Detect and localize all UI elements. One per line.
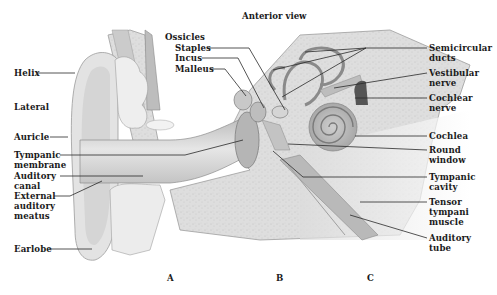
- ear-illustration: [0, 0, 497, 295]
- label-lateral: Lateral: [14, 102, 49, 112]
- label-vestibular-nerve: Vestibular nerve: [429, 68, 479, 88]
- label-tympanic-cavity: Tympanic cavity: [429, 172, 476, 192]
- label-auricle: Auricle: [14, 132, 49, 142]
- label-ossicles: Ossicles: [165, 32, 205, 42]
- label-staples: Staples: [175, 43, 211, 53]
- label-incus: Incus: [175, 53, 202, 63]
- label-tensor-tympani-muscle: Tensor tympani muscle: [429, 197, 469, 227]
- section-marker-c: C: [367, 273, 374, 283]
- ear-anatomy-diagram: Anterior view Helix Lateral Auricle Tymp…: [0, 0, 497, 295]
- label-external-auditory-meatus: External auditory meatus: [14, 191, 56, 221]
- label-auditory-canal: Auditory canal: [14, 171, 56, 191]
- label-earlobe: Earlobe: [14, 244, 52, 254]
- label-cochlear-nerve: Cochlear nerve: [429, 93, 473, 113]
- label-malleus: Malleus: [175, 64, 214, 74]
- label-round-window: Round window: [429, 145, 466, 165]
- section-marker-a: A: [167, 273, 174, 283]
- label-tympanic-membrane: Tympanic membrane: [14, 150, 66, 170]
- label-semicircular-ducts: Semicircular ducts: [429, 43, 492, 63]
- label-auditory-tube: Auditory tube: [429, 233, 471, 253]
- diagram-title: Anterior view: [242, 11, 307, 21]
- section-marker-b: B: [276, 273, 283, 283]
- label-helix: Helix: [14, 68, 40, 78]
- cochlea-shape: [309, 103, 357, 151]
- label-cochlea: Cochlea: [429, 131, 468, 141]
